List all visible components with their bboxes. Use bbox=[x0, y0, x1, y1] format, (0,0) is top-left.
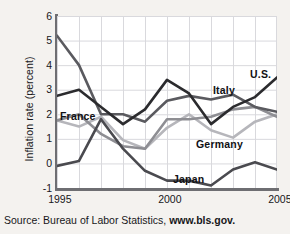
x-tick-1995: 1995 bbox=[48, 193, 71, 205]
series-label-italy: Italy bbox=[213, 84, 235, 96]
source-prefix: Source: Bureau of Labor Statistics, bbox=[4, 214, 169, 226]
series-label-us: U.S. bbox=[250, 68, 271, 80]
plot-area bbox=[57, 16, 277, 188]
x-axis-line bbox=[55, 188, 279, 191]
inflation-rate-line-chart: Inflation rate (percent) 6543210-1 19952… bbox=[0, 0, 290, 234]
series-label-france: France bbox=[60, 110, 96, 122]
y-tick-5: 5 bbox=[36, 35, 52, 46]
source-url: www.bls.gov. bbox=[169, 214, 235, 226]
y-tick-6: 6 bbox=[36, 11, 52, 22]
y-tick-4: 4 bbox=[36, 60, 52, 71]
y-tick-3: 3 bbox=[36, 84, 52, 95]
series-label-germany: Germany bbox=[196, 138, 243, 150]
y-tick-0: 0 bbox=[36, 158, 52, 169]
y-tick-neg1: -1 bbox=[36, 183, 52, 194]
x-tick-2000: 2000 bbox=[158, 193, 181, 205]
x-tick-2005: 2005 bbox=[268, 193, 290, 205]
source-caption: Source: Bureau of Labor Statistics, www.… bbox=[4, 214, 235, 226]
y-tick-1: 1 bbox=[36, 133, 52, 144]
y-tick-2: 2 bbox=[36, 109, 52, 120]
series-label-japan: Japan bbox=[173, 173, 204, 185]
y-axis-title: Inflation rate (percent) bbox=[23, 24, 35, 194]
series-lines bbox=[57, 16, 277, 188]
